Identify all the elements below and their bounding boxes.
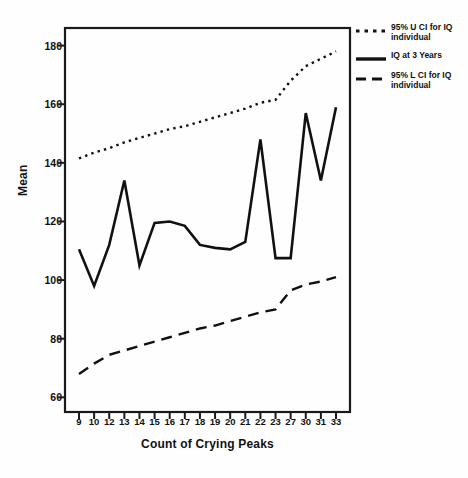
x-tick-label: 19 [210, 416, 221, 427]
x-tick-label: 21 [240, 416, 251, 427]
legend-swatch-dotted [356, 23, 386, 35]
legend-swatch-dashed [356, 71, 386, 83]
legend-item[interactable]: 95% U CI for IQ individual [356, 22, 466, 43]
legend-label: 95% L CI for IQ individual [391, 70, 466, 91]
legend-item[interactable]: IQ at 3 Years [356, 50, 466, 63]
x-tick-label: 14 [134, 416, 145, 427]
chart-page: Mean 6080100120140160180 910121314151617… [0, 0, 468, 478]
x-tick-label: 31 [316, 416, 327, 427]
legend-item[interactable]: 95% L CI for IQ individual [356, 70, 466, 91]
x-axis-tick-labels: 91012131415161718192021222327303133 [65, 416, 350, 432]
x-tick-label: 13 [119, 416, 130, 427]
x-tick-label: 15 [149, 416, 160, 427]
x-tick-label: 12 [104, 416, 115, 427]
series-line [79, 107, 336, 286]
legend-label: IQ at 3 Years [391, 50, 442, 60]
x-tick-label: 20 [225, 416, 236, 427]
x-axis-title: Count of Crying Peaks [65, 437, 350, 451]
x-tick-label: 33 [331, 416, 342, 427]
x-tick-label: 18 [195, 416, 206, 427]
chart-legend: 95% U CI for IQ individualIQ at 3 Years9… [356, 22, 466, 97]
legend-label: 95% U CI for IQ individual [391, 22, 466, 43]
x-tick-label: 9 [76, 416, 81, 427]
x-tick-label: 10 [89, 416, 100, 427]
x-tick-label: 23 [270, 416, 281, 427]
x-tick-label: 27 [285, 416, 296, 427]
x-tick-label: 30 [300, 416, 311, 427]
x-tick-label: 17 [180, 416, 191, 427]
x-tick-label: 22 [255, 416, 266, 427]
x-tick-label: 16 [164, 416, 175, 427]
series-line [79, 51, 336, 158]
series-line [79, 277, 336, 374]
legend-swatch-solid [356, 51, 386, 63]
plot-frame [65, 28, 350, 412]
data-series-layer [79, 51, 336, 373]
